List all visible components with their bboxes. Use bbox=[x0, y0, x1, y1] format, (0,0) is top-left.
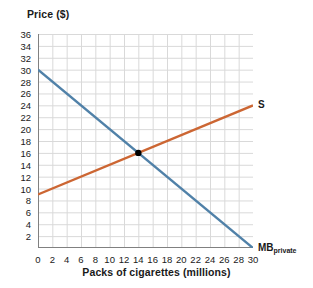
y-tick-label: 18 bbox=[15, 137, 31, 147]
curve-label-text: MB bbox=[258, 242, 274, 253]
plot-area bbox=[38, 34, 253, 248]
curve-label-MB_private: MBprivate bbox=[258, 242, 297, 253]
y-tick-label: 14 bbox=[15, 160, 31, 170]
x-tick-label: 30 bbox=[245, 255, 261, 265]
y-tick-label: 4 bbox=[15, 220, 31, 230]
x-axis-title: Packs of cigarettes (millions) bbox=[0, 266, 313, 278]
curve-label-text: S bbox=[258, 99, 265, 110]
y-tick-label: 32 bbox=[15, 53, 31, 63]
plot-svg bbox=[38, 34, 253, 248]
chart-container: Price ($) 246810121416182022242628303234… bbox=[0, 0, 313, 288]
gridlines bbox=[38, 34, 253, 248]
y-tick-label: 30 bbox=[15, 65, 31, 75]
y-tick-label: 8 bbox=[15, 196, 31, 206]
y-tick-label: 10 bbox=[15, 184, 31, 194]
equilibrium-point bbox=[135, 150, 141, 156]
curve-label-S: S bbox=[258, 99, 265, 110]
y-tick-label: 28 bbox=[15, 77, 31, 87]
curve-label-subscript: private bbox=[274, 247, 297, 254]
y-tick-label: 16 bbox=[15, 148, 31, 158]
annotations bbox=[135, 150, 141, 156]
y-tick-label: 2 bbox=[15, 232, 31, 242]
y-tick-label: 24 bbox=[15, 101, 31, 111]
y-tick-label: 36 bbox=[15, 30, 31, 40]
y-axis-title: Price ($) bbox=[27, 8, 69, 20]
series-line-S bbox=[38, 105, 253, 194]
series-lines bbox=[38, 70, 253, 248]
y-tick-label: 20 bbox=[15, 125, 31, 135]
y-tick-label: 22 bbox=[15, 113, 31, 123]
y-tick-label: 12 bbox=[15, 172, 31, 182]
y-tick-label: 26 bbox=[15, 89, 31, 99]
y-tick-label: 34 bbox=[15, 41, 31, 51]
y-tick-label: 6 bbox=[15, 208, 31, 218]
series-line-MB_private bbox=[38, 70, 253, 248]
